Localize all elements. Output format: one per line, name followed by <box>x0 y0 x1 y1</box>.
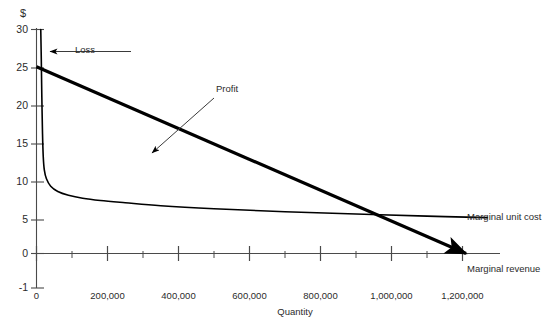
y-tick-label-20: 20 <box>4 100 28 110</box>
y-tick-label-15: 15 <box>4 138 28 148</box>
profit-annotation-arrow <box>152 98 214 153</box>
series-label-marginal-unit-cost: Marginal unit cost <box>467 212 541 222</box>
x-tick-label-1200000: 1,200,000 <box>433 291 493 301</box>
x-axis-title: Quantity <box>255 307 335 317</box>
x-tick-label-400000: 400,000 <box>149 291 209 301</box>
x-tick-label-800000: 800,000 <box>291 291 351 301</box>
y-tick-label-5: 5 <box>4 214 28 224</box>
x-tick-label-200000: 200,000 <box>78 291 138 301</box>
y-tick-label-30: 30 <box>4 24 28 34</box>
y-tick-label-0: 0 <box>4 248 28 258</box>
x-tick-label-1000000: 1,000,000 <box>362 291 422 301</box>
series-label-marginal-revenue: Marginal revenue <box>467 264 540 274</box>
y-axis-unit-label: $ <box>20 8 26 18</box>
chart-canvas: $ 30 25 20 15 10 5 0 -1 0 200,000 400,00… <box>0 0 554 323</box>
series-marginal-unit-cost <box>41 30 488 218</box>
x-tick-label-600000: 600,000 <box>220 291 280 301</box>
series-marginal-revenue <box>37 67 467 254</box>
x-tick-label-0: 0 <box>7 291 67 301</box>
annotation-label-profit: Profit <box>216 84 238 94</box>
y-tick-label-25: 25 <box>4 62 28 72</box>
annotation-label-loss: Loss <box>75 45 95 55</box>
y-tick-label-10: 10 <box>4 176 28 186</box>
